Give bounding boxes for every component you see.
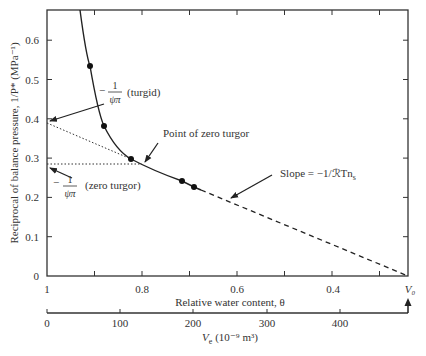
data-point (101, 123, 107, 129)
y-tick-labels: 0 0.1 0.2 0.3 0.4 0.5 0.6 (25, 34, 39, 282)
annotation-slope: Slope = −1/ℛTns (231, 167, 356, 198)
svg-text:0.6: 0.6 (25, 34, 39, 46)
data-point (191, 184, 197, 190)
svg-text:0.6: 0.6 (230, 283, 244, 295)
svg-text:V₀: V₀ (405, 283, 416, 295)
svg-text:Slope = −1/ℛTns: Slope = −1/ℛTns (280, 167, 356, 182)
svg-text:300: 300 (259, 317, 276, 329)
ve-axis-label: Ve (10⁻⁹ m³) (202, 331, 258, 346)
annotation-turgid: − 1 ψπ (turgid) (50, 80, 161, 121)
svg-text:(zero turgor): (zero turgor) (85, 179, 141, 192)
x-tick-labels: 1 0.8 0.6 0.4 V₀ (44, 283, 415, 295)
svg-text:0.1: 0.1 (25, 231, 39, 243)
plot-frame (47, 10, 408, 276)
svg-text:0.4: 0.4 (326, 283, 340, 295)
svg-text:ψπ: ψπ (109, 94, 121, 105)
x-axis-ticks (95, 10, 380, 276)
svg-text:400: 400 (332, 317, 349, 329)
ve-tick-labels: 0 100 200 300 400 (44, 317, 349, 329)
svg-text:(turgid): (turgid) (127, 86, 161, 99)
data-point (179, 178, 185, 184)
annotation-zero-turgor: − 1 ψπ (zero turgor) (50, 168, 141, 199)
svg-text:100: 100 (112, 317, 129, 329)
svg-text:1: 1 (113, 80, 118, 91)
v0-arrow-icon (405, 298, 412, 306)
svg-text:0.5: 0.5 (25, 74, 39, 86)
svg-text:0.3: 0.3 (25, 152, 39, 164)
svg-text:0: 0 (34, 270, 40, 282)
y-axis-label: Reciprocal of balance pressure, 1/P* (MP… (8, 42, 21, 243)
data-curve (80, 10, 201, 190)
svg-text:0: 0 (44, 317, 50, 329)
extrapolation-line (201, 190, 408, 276)
svg-text:ψπ: ψπ (64, 188, 76, 199)
data-point (128, 156, 134, 162)
chart: 0 0.1 0.2 0.3 0.4 0.5 0.6 Reciprocal of … (0, 0, 426, 356)
turgid-extrapolation (47, 123, 131, 159)
svg-text:0.8: 0.8 (135, 283, 149, 295)
svg-text:1: 1 (44, 283, 50, 295)
svg-text:Point of zero turgor: Point of zero turgor (163, 127, 250, 139)
svg-text:0.2: 0.2 (25, 191, 39, 203)
data-point (87, 63, 93, 69)
svg-text:1: 1 (68, 174, 73, 185)
svg-text:−: − (99, 84, 105, 96)
x-axis-label: Relative water content, θ (175, 296, 285, 308)
svg-text:−: − (53, 176, 59, 188)
annotation-point-zero-turgor: Point of zero turgor (145, 127, 250, 162)
svg-text:0.4: 0.4 (25, 113, 39, 125)
svg-text:200: 200 (185, 317, 202, 329)
